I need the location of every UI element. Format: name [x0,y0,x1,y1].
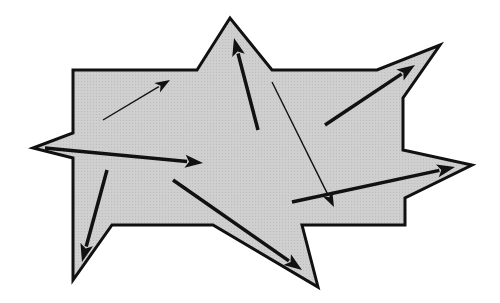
diagram-canvas [0,0,500,303]
polygon-arrows-diagram [0,0,500,303]
